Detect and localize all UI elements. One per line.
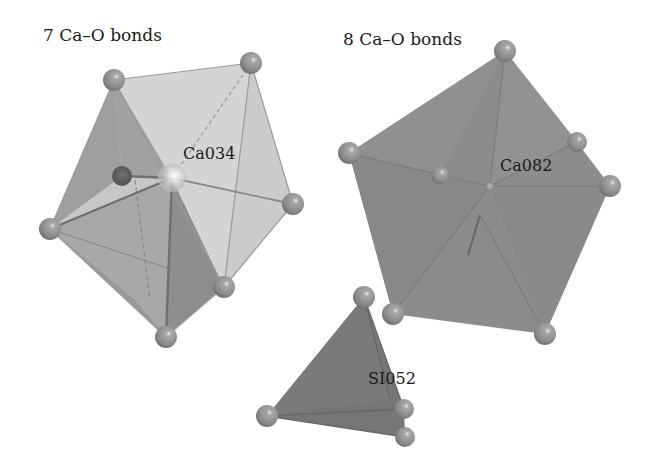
oxygen-atom	[213, 276, 235, 298]
ca034-label: Ca034	[183, 146, 235, 162]
oxygen-atom	[256, 405, 278, 427]
si052-label: SI052	[368, 371, 416, 387]
oxygen-atom	[103, 69, 125, 91]
oxygen-atom	[282, 193, 304, 215]
calcium-atom-highlight	[162, 164, 186, 188]
oxygen-atom	[534, 323, 556, 345]
oxygen-atom	[338, 142, 360, 164]
oxygen-atom	[395, 427, 415, 447]
oxygen-atom	[567, 132, 587, 152]
right-polyhedron-heading: 8 Ca–O bonds	[343, 31, 462, 48]
oxygen-atom	[39, 218, 61, 240]
oxygen-atom	[599, 175, 621, 197]
oxygen-atom	[382, 303, 404, 325]
left-polyhedron-heading: 7 Ca–O bonds	[43, 27, 162, 44]
polyhedra-drawing	[0, 0, 653, 474]
oxygen-atom	[353, 286, 375, 308]
oxygen-atom	[112, 166, 132, 186]
oxygen-atom	[240, 52, 262, 74]
oxygen-atom	[394, 399, 414, 419]
oxygen-atom	[494, 40, 516, 62]
oxygen-atom	[155, 326, 177, 348]
figure-canvas: 7 Ca–O bonds 8 Ca–O bonds Ca034 Ca082 SI…	[0, 0, 653, 474]
oxygen-atom	[431, 166, 449, 184]
ca034-polyhedron	[39, 52, 304, 348]
ca082-label: Ca082	[500, 158, 552, 174]
ca082-polyhedron	[338, 40, 621, 345]
facet	[267, 297, 390, 416]
calcium-atom	[487, 183, 493, 189]
